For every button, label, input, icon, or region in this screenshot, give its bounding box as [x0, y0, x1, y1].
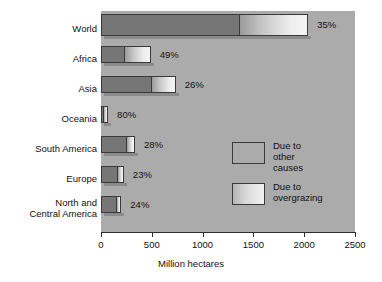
category-label-north-central-america: North and Central America	[0, 198, 97, 219]
bar-row	[101, 14, 308, 36]
bar-row	[101, 46, 151, 63]
legend-label-overgrazing: Due to overgrazing	[273, 181, 323, 203]
bar-segment-overgrazing	[103, 106, 108, 123]
x-axis-tick-label: 1500	[230, 239, 276, 250]
x-axis-tick	[253, 232, 254, 237]
bar-value-label: 28%	[144, 139, 163, 150]
legend-swatch-other-causes	[232, 142, 265, 164]
bar-shadow	[104, 93, 179, 96]
category-axis-labels: World Africa Asia Oceania South America …	[0, 11, 97, 232]
bar-segment-other-causes	[101, 166, 117, 183]
bar-shadow	[104, 213, 124, 216]
bar-row	[101, 196, 121, 213]
legend-label-other-causes: Due to other causes	[273, 140, 303, 173]
x-axis-tick-label: 0	[78, 239, 124, 250]
bar-segment-overgrazing	[151, 76, 175, 93]
bar-segment-overgrazing	[124, 46, 151, 63]
bar-segment-overgrazing	[116, 196, 121, 213]
bar-value-label: 26%	[185, 79, 204, 90]
bar-row	[101, 106, 108, 123]
bar-row	[101, 76, 176, 93]
category-label-south-america: South America	[0, 144, 97, 155]
x-axis-tick-label: 1000	[180, 239, 226, 250]
bar-segment-other-causes	[101, 14, 239, 36]
bar-value-label: 23%	[133, 169, 152, 180]
bar-segment-overgrazing	[117, 166, 124, 183]
x-axis-title: Million hectares	[0, 258, 382, 269]
category-label-europe: Europe	[0, 174, 97, 185]
category-label-oceania: Oceania	[0, 114, 97, 125]
bar-segment-other-causes	[101, 136, 126, 153]
bar-shadow	[104, 183, 127, 186]
bar-shadow	[104, 153, 138, 156]
bar-segment-overgrazing	[126, 136, 135, 153]
bar-segment-other-causes	[101, 46, 124, 63]
x-axis-tick	[101, 232, 102, 237]
category-label-world: World	[0, 24, 97, 35]
x-axis-tick	[152, 232, 153, 237]
bar-segment-other-causes	[101, 76, 151, 93]
bar-chart: World Africa Asia Oceania South America …	[0, 0, 382, 282]
bar-shadow	[104, 123, 111, 126]
x-axis-tick-label: 500	[129, 239, 175, 250]
bar-value-label: 24%	[130, 199, 149, 210]
legend-swatch-overgrazing	[232, 183, 265, 205]
bar-value-label: 49%	[160, 49, 179, 60]
x-axis-tick-label: 2500	[332, 239, 378, 250]
bar-row	[101, 166, 124, 183]
bar-segment-other-causes	[101, 196, 116, 213]
bar-value-label: 35%	[317, 19, 336, 30]
x-axis-line	[101, 232, 356, 233]
bar-shadow	[104, 36, 311, 39]
x-axis-tick	[304, 232, 305, 237]
category-label-africa: Africa	[0, 54, 97, 65]
x-axis-tick	[355, 232, 356, 237]
bar-row	[101, 136, 135, 153]
category-label-asia: Asia	[0, 84, 97, 95]
bar-segment-overgrazing	[239, 14, 308, 36]
bar-value-label: 80%	[117, 109, 136, 120]
bar-shadow	[104, 63, 154, 66]
x-axis-tick-label: 2000	[281, 239, 327, 250]
x-axis-tick	[203, 232, 204, 237]
